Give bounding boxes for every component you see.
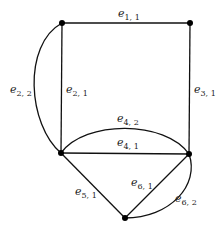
edge-e21 bbox=[61, 23, 62, 153]
label-e31: e3, 1 bbox=[194, 83, 216, 98]
vertex-v3 bbox=[58, 150, 64, 156]
label-e21: e2, 1 bbox=[66, 83, 88, 98]
edge-e41 bbox=[61, 153, 189, 154]
label-e51: e5, 1 bbox=[75, 185, 97, 200]
vertex-v1 bbox=[59, 20, 65, 26]
label-e61: e6, 1 bbox=[131, 176, 153, 191]
edge-e31 bbox=[189, 23, 190, 154]
vertex-v4 bbox=[186, 151, 192, 157]
label-e62: e6, 2 bbox=[175, 192, 197, 207]
multigraph-diagram: e1, 1 e2, 1 e2, 2 e3, 1 e4, 1 e4, 2 e5, … bbox=[0, 0, 220, 232]
vertex-v2 bbox=[187, 20, 193, 26]
label-e22: e2, 2 bbox=[10, 83, 32, 98]
label-e11: e1, 1 bbox=[118, 7, 140, 22]
edge-e22 bbox=[34, 23, 62, 153]
edge-e51 bbox=[61, 153, 125, 218]
label-e41: e4, 1 bbox=[117, 136, 139, 151]
label-e42: e4, 2 bbox=[117, 112, 139, 127]
vertex-v5 bbox=[122, 215, 128, 221]
